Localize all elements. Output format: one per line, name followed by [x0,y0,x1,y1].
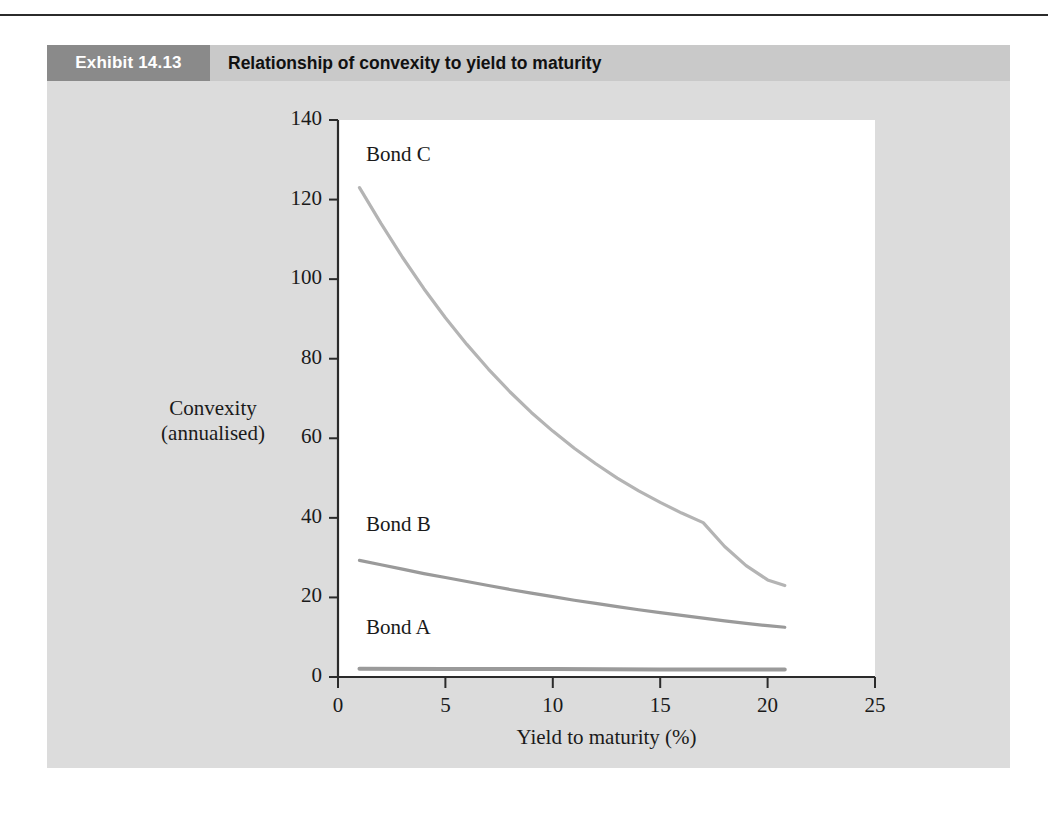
y-tick-label: 80 [301,345,322,370]
exhibit-title: Relationship of convexity to yield to ma… [210,45,1010,81]
y-axis-title: Convexity(annualised) [133,396,293,446]
exhibit-panel: Exhibit 14.13 Relationship of convexity … [47,45,1010,768]
chart-region: 0204060801001201400510152025Bond CBond B… [47,81,1010,768]
x-axis-title: Yield to maturity (%) [502,725,712,750]
x-tick-label: 25 [835,693,915,718]
series-line-bond-a [359,669,784,670]
series-label-bond-c: Bond C [366,142,431,167]
y-axis-title-line1: Convexity [133,396,293,421]
page-top-rule [0,14,1048,16]
y-tick-label: 60 [301,424,322,449]
y-tick-label: 40 [301,504,322,529]
x-tick-label: 15 [620,693,700,718]
x-tick-label: 5 [405,693,485,718]
y-tick-label: 0 [312,663,323,688]
x-tick-label: 10 [513,693,593,718]
x-tick-label: 20 [728,693,808,718]
series-label-bond-a: Bond A [366,615,431,640]
x-tick-label: 0 [298,693,378,718]
y-tick-label: 120 [291,186,323,211]
y-tick-label: 20 [301,583,322,608]
y-tick-label: 140 [291,106,323,131]
exhibit-header: Exhibit 14.13 Relationship of convexity … [47,45,1010,81]
exhibit-number-badge: Exhibit 14.13 [47,45,210,81]
series-label-bond-b: Bond B [366,512,431,537]
y-tick-label: 100 [291,265,323,290]
y-axis-title-line2: (annualised) [133,421,293,446]
